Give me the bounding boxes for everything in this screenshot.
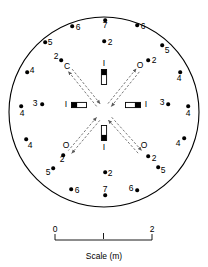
perimeter-point-label: 6 bbox=[76, 23, 81, 32]
radial-arrow-label: O bbox=[137, 61, 144, 70]
perimeter-point-dot bbox=[146, 58, 150, 62]
perimeter-point-dot bbox=[135, 23, 139, 27]
radial-arrow-label: O bbox=[141, 141, 148, 150]
axial-marker-fill bbox=[101, 135, 106, 141]
perimeter-point-dot bbox=[146, 154, 150, 158]
perimeter-point-dot bbox=[160, 43, 164, 47]
axial-marker-label: I bbox=[103, 143, 105, 152]
perimeter-point-label: 2 bbox=[54, 52, 59, 61]
perimeter-point-label: 4 bbox=[20, 109, 25, 118]
perimeter-point-dot bbox=[102, 39, 106, 43]
scale-left-label: 0 bbox=[53, 224, 58, 234]
perimeter-point-dot bbox=[59, 58, 63, 62]
perimeter-point-label: 2 bbox=[108, 169, 113, 178]
perimeter-point-label: 7 bbox=[103, 185, 108, 194]
perimeter-point-label: 5 bbox=[165, 46, 170, 55]
scale-bar-group bbox=[55, 233, 152, 240]
radial-arrow-label: O bbox=[63, 141, 70, 150]
perimeter-point-label: 4 bbox=[177, 74, 182, 83]
axial-marker-fill bbox=[101, 70, 106, 76]
perimeter-point-label: 4 bbox=[30, 66, 35, 75]
perimeter-point-label: 5 bbox=[48, 38, 53, 47]
perimeter-point-label: 2 bbox=[108, 38, 113, 47]
axial-marker-label: I bbox=[145, 100, 147, 109]
axial-marker-label: I bbox=[65, 100, 67, 109]
radial-arrow-label: C bbox=[64, 62, 70, 71]
perimeter-point-label: 2 bbox=[60, 155, 65, 164]
perimeter-point-label: 5 bbox=[46, 168, 51, 177]
perimeter-point-label: 2 bbox=[152, 56, 157, 65]
axial-marker-fill bbox=[135, 102, 141, 107]
perimeter-point-dot bbox=[156, 165, 160, 169]
perimeter-point-label: 2 bbox=[152, 154, 157, 163]
scale-caption: Scale (m) bbox=[86, 251, 122, 261]
perimeter-point-dot bbox=[43, 40, 47, 44]
perimeter-point-label: 5 bbox=[161, 166, 166, 175]
perimeter-point-label: 4 bbox=[28, 141, 33, 150]
enclosure-outline-circle bbox=[9, 17, 199, 207]
perimeter-point-dot bbox=[69, 187, 73, 191]
perimeter-point-label: 6 bbox=[141, 22, 146, 31]
perimeter-point-label: 3 bbox=[160, 98, 165, 107]
axial-marker-fill bbox=[72, 102, 78, 107]
perimeter-point-label: 4 bbox=[186, 109, 191, 118]
scale-right-label: 2 bbox=[150, 224, 155, 234]
perimeter-point-dot bbox=[40, 102, 44, 106]
perimeter-point-dot bbox=[70, 24, 74, 28]
axial-marker-label: I bbox=[103, 59, 105, 68]
perimeter-point-label: 3 bbox=[33, 99, 38, 108]
perimeter-point-dot bbox=[135, 188, 139, 192]
perimeter-point-label: 7 bbox=[103, 21, 108, 30]
perimeter-point-dot bbox=[166, 102, 170, 106]
perimeter-point-label: 6 bbox=[75, 186, 80, 195]
perimeter-point-label: 4 bbox=[176, 139, 181, 148]
perimeter-point-label: 6 bbox=[129, 184, 134, 193]
perimeter-point-dot bbox=[182, 136, 186, 140]
perimeter-point-dot bbox=[25, 70, 29, 74]
perimeter-point-dot bbox=[51, 166, 55, 170]
perimeter-point-dot bbox=[103, 170, 107, 174]
figure-canvas: 676255224433444422552676 COOO IIII 0 2 S… bbox=[0, 0, 208, 267]
